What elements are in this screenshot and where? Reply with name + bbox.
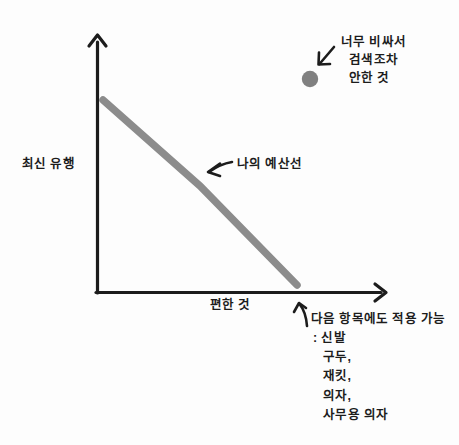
budget-line-callout-label: 나의 예산선	[237, 158, 302, 171]
x-axis-label: 편한 것	[210, 299, 251, 312]
arrow-left-icon	[208, 162, 232, 176]
applies-to-item: 사무용 의자	[311, 409, 445, 422]
applies-to-callout: 다음 항목에도 적용 가능 : 신발 구두, 재킷, 의자, 사무용 의자	[311, 313, 445, 428]
arrow-up-curved-icon	[294, 303, 307, 326]
expensive-item-callout: 너무 비싸서 검색조차 안한 것	[341, 36, 406, 90]
expensive-callout-line-2: 검색조차	[341, 54, 406, 67]
budget-line-sketch: 최신 유행 편한 것 나의 예산선 너무 비싸서 검색조차 안한 것 다음 항목…	[0, 0, 459, 445]
budget-line	[103, 100, 297, 285]
expensive-item-dot	[302, 71, 318, 87]
expensive-callout-line-1: 너무 비싸서	[341, 36, 406, 49]
expensive-callout-line-3: 안한 것	[341, 72, 406, 85]
applies-to-item: 구두,	[311, 351, 445, 364]
applies-to-item: : 신발	[311, 332, 445, 345]
arrow-down-left-icon	[319, 47, 335, 65]
applies-to-item: 의자,	[311, 390, 445, 403]
applies-to-heading: 다음 항목에도 적용 가능	[311, 313, 445, 326]
applies-to-item: 재킷,	[311, 370, 445, 383]
y-axis-label: 최신 유행	[22, 158, 75, 171]
